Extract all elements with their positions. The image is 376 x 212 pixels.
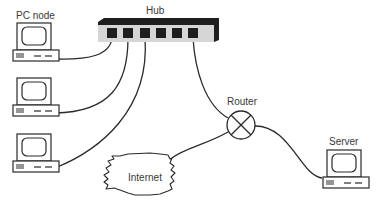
server-node bbox=[323, 150, 369, 188]
hub-port-6 bbox=[188, 28, 198, 38]
hub-label: Hub bbox=[146, 6, 164, 16]
internet-label: Internet bbox=[128, 173, 162, 183]
pc-node-2 bbox=[13, 78, 59, 116]
hub-port-3 bbox=[140, 28, 150, 38]
cable-hub-router bbox=[193, 38, 228, 118]
hub-device bbox=[98, 18, 219, 42]
cable-router-internet bbox=[172, 132, 228, 158]
router-label: Router bbox=[227, 97, 257, 107]
cable-router-server bbox=[254, 126, 322, 178]
pc-node-3 bbox=[13, 134, 59, 172]
router-device bbox=[227, 111, 255, 139]
cables bbox=[55, 38, 322, 178]
hub-port-5 bbox=[172, 28, 182, 38]
pc-node-1 bbox=[13, 23, 59, 61]
server-label: Server bbox=[329, 137, 358, 147]
pc-node-label: PC node bbox=[16, 11, 55, 21]
hub-port-2 bbox=[123, 28, 133, 38]
network-diagram bbox=[0, 0, 376, 212]
cable-pc2-hub bbox=[55, 38, 128, 113]
hub-port-1 bbox=[107, 28, 117, 38]
hub-port-4 bbox=[156, 28, 166, 38]
